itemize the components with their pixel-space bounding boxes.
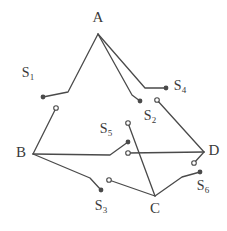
node-label-b: B xyxy=(16,144,26,160)
switch-label-s4: S4 xyxy=(174,78,187,95)
edge-A-to-S4 xyxy=(98,34,166,88)
node-label-a: A xyxy=(93,9,104,25)
edge-S2-circle-to-C xyxy=(128,123,155,196)
edge-B-to-S3 xyxy=(33,154,101,190)
edge-A-to-S2 xyxy=(98,34,140,101)
contact-dot-s4 xyxy=(164,86,169,91)
switch-label-s1: S1 xyxy=(22,65,34,82)
switch-label-s5: S5 xyxy=(100,121,113,138)
contact-circle-s2 xyxy=(126,121,131,126)
node-label-d: D xyxy=(209,142,220,158)
switch-subscript-s5: 5 xyxy=(108,128,113,138)
edge-B-to-S5 xyxy=(33,142,128,155)
contact-circle-s3 xyxy=(107,178,112,183)
contact-dot-s2 xyxy=(138,99,143,104)
switch-label-s2: S2 xyxy=(144,108,156,125)
contact-dot-s5 xyxy=(126,140,131,145)
switch-label-s6: S6 xyxy=(197,178,210,195)
contacts-group xyxy=(41,86,203,193)
switch-subscript-s4: 4 xyxy=(182,85,187,95)
contact-circle-s1 xyxy=(54,106,59,111)
edge-A-to-S1 xyxy=(43,34,98,97)
contact-circle-s6 xyxy=(192,161,197,166)
switch-subscript-s6: 6 xyxy=(205,185,210,195)
contact-circle-s5 xyxy=(126,151,131,156)
node-label-c: C xyxy=(150,200,160,216)
edge-C-to-S6 xyxy=(155,172,200,196)
diagram-canvas: S1S2S3S4S5S6ABCD xyxy=(0,0,227,231)
switch-subscript-s3: 3 xyxy=(103,205,108,215)
contact-circle-s4 xyxy=(155,98,160,103)
switching-network-diagram: S1S2S3S4S5S6ABCD xyxy=(0,0,227,231)
switch-subscript-s2: 2 xyxy=(152,115,157,125)
contact-dot-s6 xyxy=(198,170,203,175)
edge-S4-circle-to-D xyxy=(157,100,204,152)
labels-group: S1S2S3S4S5S6ABCD xyxy=(16,9,220,216)
edges-group xyxy=(33,34,204,196)
contact-dot-s1 xyxy=(41,95,46,100)
switch-subscript-s1: 1 xyxy=(30,72,35,82)
edge-S1-circle-to-B xyxy=(33,108,56,154)
switch-label-s3: S3 xyxy=(95,198,108,215)
edge-S3-circle-to-C xyxy=(109,180,155,196)
contact-dot-s3 xyxy=(99,188,104,193)
